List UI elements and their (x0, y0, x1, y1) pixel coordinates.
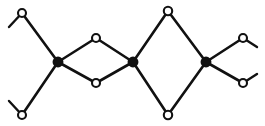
node-junction-center (129, 58, 138, 67)
node-large-rhombus-bottom (164, 111, 172, 119)
node-small-rhombus-top (92, 34, 100, 42)
node-top-right (239, 34, 247, 42)
node-small-rhombus-bottom (92, 79, 100, 87)
figure-canvas (0, 0, 265, 126)
structure-diagram (0, 0, 265, 126)
node-top-left (18, 9, 26, 17)
node-junction-left (54, 58, 63, 67)
node-large-rhombus-top (164, 7, 172, 15)
node-bottom-right (239, 79, 247, 87)
node-junction-right (202, 58, 211, 67)
node-bottom-left (18, 111, 26, 119)
